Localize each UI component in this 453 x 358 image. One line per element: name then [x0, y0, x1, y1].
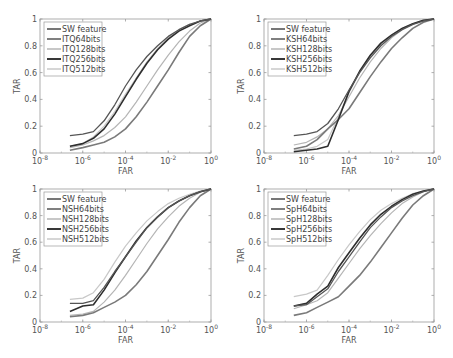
legend-entry: KSH512bits [286, 65, 332, 74]
y-tick-label: 1 [32, 15, 37, 24]
y-axis-label: TAR [13, 78, 22, 95]
legend-entry: SW feature [62, 25, 106, 34]
legend-entry: SpH256bits [286, 225, 332, 234]
x-tick-label: 10-2 [383, 323, 399, 335]
legend-entry: KSH64bits [286, 35, 327, 44]
y-tick-label: 0.2 [24, 122, 37, 131]
x-axis-label: FAR [118, 167, 133, 176]
legend-entry: ITQ256bits [62, 55, 105, 64]
y-tick-label: 1 [256, 185, 261, 194]
y-tick-label: 0.8 [248, 212, 261, 221]
x-tick-label: 10-4 [341, 154, 357, 166]
legend-entry: ITQ512bits [62, 65, 105, 74]
roc-figure: 00.20.40.60.8110-810-610-410-2100FARTARS… [0, 0, 453, 358]
x-tick-label: 10-2 [160, 154, 176, 166]
legend-entry: NSH64bits [62, 205, 104, 214]
y-tick-label: 1 [256, 15, 261, 24]
legend-entry: SpH64bits [286, 205, 327, 214]
roc-panel-2: 00.20.40.60.8110-810-610-410-2100FARTARS… [13, 185, 218, 345]
y-tick-label: 0.4 [24, 265, 37, 274]
x-axis-label: FAR [342, 336, 357, 345]
x-axis-label: FAR [342, 167, 357, 176]
y-tick-label: 0.2 [24, 291, 37, 300]
legend-entry: ITQ128bits [62, 45, 105, 54]
x-tick-label: 10-4 [341, 323, 357, 335]
y-axis-label: TAR [13, 247, 22, 264]
legend-entry: NSH128bits [62, 215, 109, 224]
x-tick-label: 10-4 [117, 323, 133, 335]
legend-entry: NSH256bits [62, 225, 109, 234]
legend-entry: SpH512bits [286, 235, 332, 244]
x-tick-label: 10-4 [117, 154, 133, 166]
y-tick-label: 0.8 [24, 212, 37, 221]
x-tick-label: 10-2 [383, 154, 399, 166]
legend-entry: SW feature [62, 195, 106, 204]
y-tick-label: 0.6 [248, 69, 261, 78]
x-tick-label: 10-6 [75, 323, 91, 335]
x-tick-label: 100 [204, 323, 218, 335]
y-tick-label: 0.4 [24, 95, 37, 104]
y-tick-label: 0.6 [24, 238, 37, 247]
y-tick-label: 1 [32, 185, 37, 194]
roc-panel-0: 00.20.40.60.8110-810-610-410-2100FARTARS… [13, 15, 218, 176]
x-tick-label: 100 [204, 154, 218, 166]
legend-entry: NSH512bits [62, 235, 109, 244]
legend-entry: SW feature [286, 195, 330, 204]
y-axis-label: TAR [237, 78, 246, 95]
y-axis-label: TAR [237, 247, 246, 264]
legend-entry: KSH128bits [286, 45, 332, 54]
y-tick-label: 0.6 [24, 69, 37, 78]
x-tick-label: 10-6 [298, 154, 314, 166]
y-tick-label: 0.2 [248, 291, 261, 300]
y-tick-label: 0.8 [248, 42, 261, 51]
legend-entry: SpH128bits [286, 215, 332, 224]
roc-panel-3: 00.20.40.60.8110-810-610-410-2100FARTARS… [237, 185, 441, 345]
x-tick-label: 10-6 [75, 154, 91, 166]
x-axis-label: FAR [118, 336, 133, 345]
roc-panel-1: 00.20.40.60.8110-810-610-410-2100FARTARS… [237, 15, 441, 176]
y-tick-label: 0.6 [248, 238, 261, 247]
legend-entry: ITQ64bits [62, 35, 100, 44]
y-tick-label: 0.8 [24, 42, 37, 51]
legend-entry: SW feature [286, 25, 330, 34]
legend-entry: KSH256bits [286, 55, 332, 64]
x-tick-label: 100 [427, 154, 441, 166]
y-tick-label: 0.4 [248, 95, 261, 104]
y-tick-label: 0.2 [248, 122, 261, 131]
x-tick-label: 10-2 [160, 323, 176, 335]
x-tick-label: 10-6 [298, 323, 314, 335]
x-tick-label: 100 [427, 323, 441, 335]
y-tick-label: 0.4 [248, 265, 261, 274]
